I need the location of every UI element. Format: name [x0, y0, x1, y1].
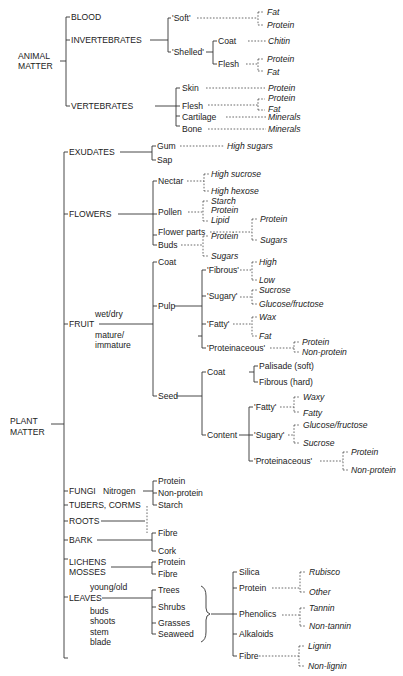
node-shrubs: Shrubs: [158, 602, 185, 612]
node-alkaloids: Alkaloids: [239, 629, 273, 639]
node-flesh: Flesh: [218, 59, 239, 69]
value-fatty: Fatty: [303, 408, 323, 418]
fruit-note-wet-dry: wet/dry: [94, 309, 123, 319]
value-high-hexose: High hexose: [211, 186, 259, 196]
node-blood: BLOOD: [71, 12, 101, 22]
value-minerals: Minerals: [268, 112, 301, 122]
node-seed-proteinaceous: 'Proteinaceous': [254, 456, 313, 466]
node-gum: Gum: [157, 141, 176, 151]
value-non-lignin: Non-lignin: [308, 661, 347, 671]
node-lichens: LICHENS: [69, 557, 107, 567]
leaves-note-buds: buds: [90, 606, 109, 616]
value-protein: Protein: [211, 231, 238, 241]
value-low: Low: [259, 275, 276, 285]
root-label: PLANT: [10, 416, 38, 426]
node-coat: Coat: [218, 36, 237, 46]
value-high-sugars: High sugars: [227, 141, 274, 151]
value-sugars: Sugars: [211, 251, 239, 261]
node-flower-parts: Flower parts: [158, 227, 205, 237]
value-protein: Protein: [302, 337, 329, 347]
node-shelled: 'Shelled': [172, 47, 204, 57]
value-fat: Fat: [267, 7, 280, 17]
value-protein: Protein: [267, 54, 294, 64]
node-fibre: Fibre: [158, 528, 178, 538]
value-protein: Protein: [268, 83, 295, 93]
node-fungi: FUNGI: [69, 486, 96, 496]
node-fibre: Fibre: [158, 569, 178, 579]
node-content: Content: [207, 430, 238, 440]
leaves-note-shoots: shoots: [90, 616, 115, 626]
value-high: High: [259, 257, 277, 267]
node-protein: Protein: [158, 476, 185, 486]
value-lignin: Lignin: [308, 641, 331, 651]
value-glucose-fructose: Glucose/fructose: [303, 420, 368, 430]
root-label: MATTER: [18, 61, 53, 71]
node-fruit: FRUIT: [69, 319, 95, 329]
root-label: ANIMAL: [18, 51, 50, 61]
node-skin: Skin: [182, 83, 199, 93]
node-buds: Buds: [158, 240, 178, 250]
value-waxy: Waxy: [303, 392, 325, 402]
animal-matter-branch: ANIMAL MATTER BLOOD INVERTEBRATES VERTEB…: [18, 7, 301, 134]
value-sucrose: Sucrose: [303, 438, 335, 448]
node-nectar: Nectar: [158, 176, 183, 186]
node-seed-fatty: 'Fatty': [254, 402, 277, 412]
value-non-protein: Non-protein: [351, 465, 396, 475]
value-protein: Protein: [267, 20, 294, 30]
node-flesh: Flesh: [182, 101, 203, 111]
node-seed-coat: Coat: [207, 367, 226, 377]
value-protein: Protein: [260, 214, 287, 224]
value-fat: Fat: [259, 331, 272, 341]
plant-matter-branch: PLANT MATTER EXUDATES Gum High sugars Sa…: [10, 141, 396, 671]
node-protein: Protein: [239, 583, 266, 593]
value-protein: Protein: [211, 205, 238, 215]
node-grasses: Grasses: [158, 618, 190, 628]
node-coat: Coat: [158, 257, 177, 267]
value-wax: Wax: [259, 312, 277, 322]
node-fibre: Fibre: [239, 651, 259, 661]
food-composition-tree-diagram: ANIMAL MATTER BLOOD INVERTEBRATES VERTEB…: [0, 0, 403, 676]
fruit-note-immature: immature: [95, 340, 131, 350]
node-bark: BARK: [69, 535, 93, 545]
value-lipid: Lipid: [211, 215, 229, 225]
curly-brace: [201, 586, 210, 642]
node-fibrous: 'Fibrous': [207, 265, 239, 275]
node-exudates: EXUDATES: [69, 147, 115, 157]
value-glucose-fructose: Glucose/fructose: [259, 299, 324, 309]
node-invertebrates: INVERTEBRATES: [71, 35, 142, 45]
value-minerals: Minerals: [268, 124, 301, 134]
node-seed-sugary: 'Sugary': [254, 430, 285, 440]
value-protein: Protein: [268, 93, 295, 103]
node-sap: Sap: [157, 155, 173, 165]
leaves-note-young-old: young/old: [90, 582, 127, 592]
node-bone: Bone: [182, 124, 202, 134]
value-non-protein: Non-protein: [302, 347, 347, 357]
node-pollen: Pollen: [158, 207, 182, 217]
node-nitrogen: Nitrogen: [103, 486, 136, 496]
node-palisade: Palisade (soft): [259, 361, 314, 371]
node-flowers: FLOWERS: [69, 209, 112, 219]
value-sucrose: Sucrose: [259, 285, 291, 295]
leaves-note-stem: stem: [90, 627, 109, 637]
node-seaweed: Seaweed: [158, 629, 194, 639]
value-sugars: Sugars: [260, 235, 288, 245]
node-tubers-corms: TUBERS, CORMS: [69, 500, 141, 510]
node-trees: Trees: [158, 585, 180, 595]
node-mosses: MOSSES: [69, 567, 106, 577]
node-phenolics: Phenolics: [239, 609, 276, 619]
value-high-sucrose: High sucrose: [211, 169, 261, 179]
value-tannin: Tannin: [309, 603, 335, 613]
node-sugary: 'Sugary': [207, 291, 238, 301]
node-roots: ROOTS: [69, 516, 100, 526]
node-soft: 'Soft': [172, 13, 191, 23]
node-protein: Protein: [158, 557, 185, 567]
value-fat: Fat: [267, 67, 280, 77]
value-chitin: Chitin: [268, 36, 290, 46]
root-label: MATTER: [10, 427, 45, 437]
value-non-tannin: Non-tannin: [309, 621, 351, 631]
leaves-note-blade: blade: [90, 637, 111, 647]
node-proteinaceous: 'Proteinaceous': [207, 343, 266, 353]
node-vertebrates: VERTEBRATES: [71, 101, 134, 111]
node-cartilage: Cartilage: [182, 112, 217, 122]
node-leaves: LEAVES: [69, 593, 102, 603]
